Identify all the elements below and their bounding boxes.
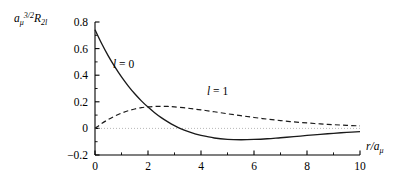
x-tick-label-5: 10 (354, 160, 366, 172)
x-tick-label-0: 0 (92, 160, 98, 172)
x-axis-title: r/aμ (366, 140, 383, 155)
y-tick-label-1: 0.6 (74, 43, 89, 55)
label-l-0: l = 0 (113, 58, 134, 70)
y-tick-label-2: 0.4 (74, 69, 89, 81)
x-axis-tick-labels: 0246810 (92, 160, 366, 172)
y-tick-label-4: 0 (82, 122, 88, 134)
y-tick-label-0: 0.8 (74, 16, 89, 28)
figure-container: 0.80.60.40.20−0.2 0246810 aμ3/2R2l r/aμ … (0, 0, 407, 188)
x-tick-label-1: 2 (145, 160, 151, 172)
y-title-second-sub: 2l (41, 18, 48, 27)
label-l-1: l = 1 (207, 85, 228, 97)
y-axis-title: aμ3/2R2l (14, 11, 48, 27)
x-title-denominator-sub: μ (378, 146, 383, 155)
y-tick-label-3: 0.2 (74, 96, 89, 108)
y-axis-tick-labels: 0.80.60.40.20−0.2 (67, 16, 88, 161)
chart-svg: 0.80.60.40.20−0.2 0246810 aμ3/2R2l r/aμ … (0, 0, 407, 188)
x-tick-label-3: 6 (251, 160, 257, 172)
y-title-base-sup: 3/2 (23, 11, 34, 20)
curve-l-1 (95, 106, 360, 128)
x-tick-label-2: 4 (198, 160, 204, 172)
y-tick-label-5: −0.2 (67, 149, 88, 161)
x-tick-label-4: 8 (304, 160, 310, 172)
y-title-second: R (33, 12, 41, 24)
